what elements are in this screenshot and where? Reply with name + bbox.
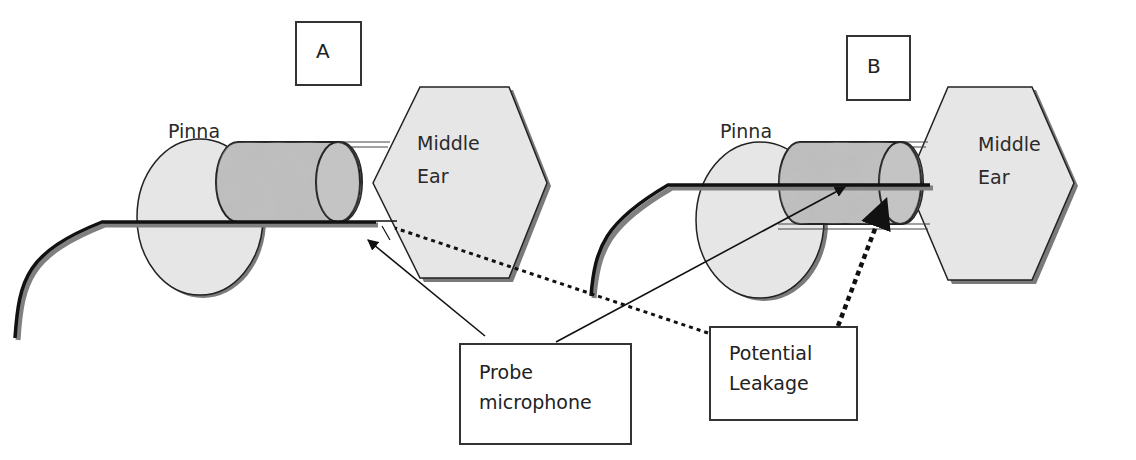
middle-ear-b-line1: Middle [978,128,1041,161]
ear-plug-a [216,142,362,222]
potential-leakage-callout: Potential Leakage [709,326,858,421]
probe-microphone-text: Probe microphone [479,357,592,417]
leakage-line2: Leakage [729,368,812,398]
middle-ear-b-line2: Ear [978,161,1041,194]
panel-a-label: A [316,36,330,66]
probe-line2: microphone [479,387,592,417]
panel-b [591,87,1078,301]
probe-line1: Probe [479,357,592,387]
pinna-a-label: Pinna [168,118,220,144]
middle-ear-a-line1: Middle [417,127,480,160]
leakage-line1: Potential [729,338,812,368]
pinna-b-label: Pinna [720,118,772,144]
middle-ear-a-line2: Ear [417,160,480,193]
panel-b-label: B [867,51,881,81]
potential-leakage-text: Potential Leakage [729,338,812,398]
panel-a-label-box: A [295,21,362,86]
panel-a [15,87,551,340]
panel-b-label-box: B [846,35,911,101]
middle-ear-a-label: Middle Ear [417,127,480,193]
probe-microphone-callout: Probe microphone [459,343,632,445]
middle-ear-b-label: Middle Ear [978,128,1041,194]
